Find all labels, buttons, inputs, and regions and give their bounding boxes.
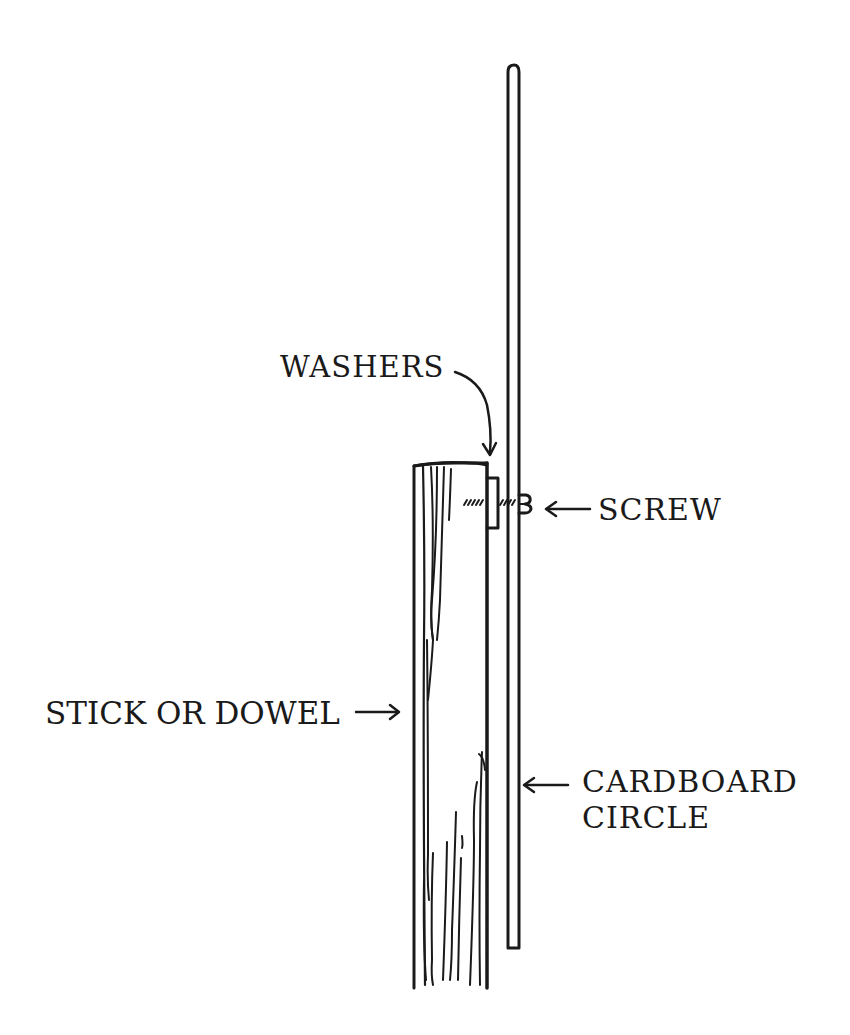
screw-arrow	[546, 502, 590, 516]
cardboard-circle-label-line2: CIRCLE	[582, 803, 710, 833]
cardboard-circle	[508, 65, 519, 948]
washers-arrow	[455, 372, 496, 455]
stick-or-dowel	[414, 462, 487, 988]
washers-label: WASHERS	[280, 353, 444, 382]
screw-label: SCREW	[598, 495, 722, 525]
stick-or-dowel-label: STICK OR DOWEL	[45, 698, 340, 729]
cardboard-circle-label-line1: CARDBOARD	[582, 767, 798, 797]
diagram-canvas: WASHERS SCREW STICK OR DOWEL CARDBOARD C…	[0, 0, 850, 1035]
stick-arrow	[356, 705, 399, 719]
assembly-drawing	[0, 0, 850, 1035]
cardboard-arrow	[524, 778, 568, 792]
